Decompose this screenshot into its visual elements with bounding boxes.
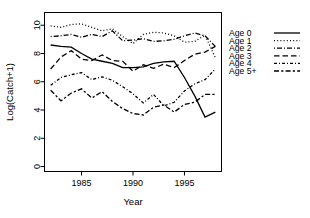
y-tick-label: 6 bbox=[33, 79, 43, 84]
chart-background bbox=[0, 0, 310, 218]
legend-label-age-5: Age 5+ bbox=[229, 66, 256, 76]
y-axis-title: Log(Catch+1) bbox=[4, 63, 15, 121]
y-tick-label: 2 bbox=[33, 136, 43, 141]
line-chart: 0246810 198519901995 Log(Catch+1) Year A… bbox=[0, 0, 310, 218]
x-tick-label: 1995 bbox=[174, 178, 194, 188]
x-tick-label: 1990 bbox=[123, 178, 143, 188]
y-tick-label: 0 bbox=[33, 164, 43, 169]
y-tick-label: 8 bbox=[33, 51, 43, 56]
chart-figure: 0246810 198519901995 Log(Catch+1) Year A… bbox=[0, 0, 310, 218]
y-tick-label: 4 bbox=[33, 108, 43, 113]
y-tick-label: 10 bbox=[33, 20, 43, 30]
x-axis-title: Year bbox=[123, 196, 142, 207]
x-tick-label: 1985 bbox=[72, 178, 92, 188]
